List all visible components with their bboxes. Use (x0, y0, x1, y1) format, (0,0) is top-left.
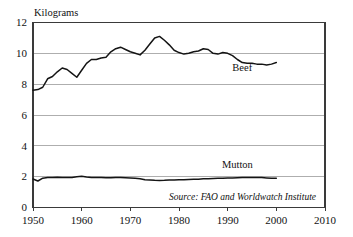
x-tick-label-2000: 2000 (265, 214, 288, 226)
y-tick-label-8: 8 (22, 78, 28, 90)
series-label-beef: Beef (232, 62, 252, 73)
x-tick-label-1990: 1990 (217, 214, 240, 226)
x-tick-label-1960: 1960 (71, 214, 94, 226)
x-tick-label-1950: 1950 (22, 214, 45, 226)
x-tick-label-1980: 1980 (168, 214, 191, 226)
chart-canvas: 024681012 1950196019701980199020002010 K… (0, 0, 353, 237)
y-tick-label-10: 10 (16, 47, 28, 59)
y-tick-label-4: 4 (22, 140, 28, 152)
y-tick-label-0: 0 (22, 201, 28, 213)
y-tick-label-6: 6 (22, 109, 28, 121)
y-axis-title: Kilograms (34, 7, 78, 18)
source-annotation: Source: FAO and Worldwatch Institute (169, 192, 316, 202)
y-tick-label-2: 2 (22, 170, 28, 182)
y-tick-label-12: 12 (16, 16, 27, 28)
chart-figure: 024681012 1950196019701980199020002010 K… (0, 0, 353, 237)
x-tick-label-2010: 2010 (314, 214, 337, 226)
series-label-mutton: Mutton (222, 159, 254, 170)
x-tick-label-1970: 1970 (119, 214, 142, 226)
